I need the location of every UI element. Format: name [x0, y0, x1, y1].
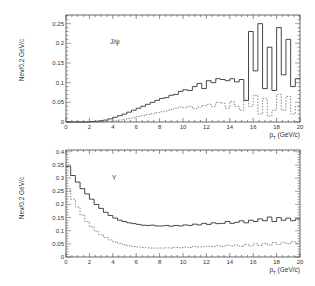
x-tick-label: 6 — [135, 124, 139, 130]
x-tick-label: 18 — [273, 259, 280, 265]
x-tick-label: 0 — [64, 259, 68, 265]
solid-histogram — [66, 166, 300, 226]
plot-frame — [66, 150, 300, 257]
dashed-histogram — [66, 189, 300, 248]
plot-frame — [66, 15, 300, 122]
y-tick-label: 0.3 — [56, 175, 65, 181]
x-tick-label: 4 — [111, 124, 115, 130]
x-tick-label: 8 — [158, 259, 162, 265]
particle-annotation: J/ψ — [110, 38, 120, 46]
x-tick-label: 10 — [180, 124, 187, 130]
x-tick-label: 2 — [88, 259, 92, 265]
y-axis-label: Nev/0.2 GeV/c — [18, 176, 25, 219]
x-tick-label: 16 — [250, 124, 257, 130]
x-axis-label: pT (GeV/c) — [269, 131, 300, 141]
y-tick-label: 0.15 — [52, 60, 64, 66]
jpsi-panel: 0246810121416182000.050.10.150.20.25J/ψp… — [18, 15, 304, 141]
y-tick-label: 0.25 — [52, 21, 64, 27]
x-tick-label: 6 — [135, 259, 139, 265]
upsilon-panel: 0246810121416182000.050.10.150.20.250.30… — [18, 149, 304, 276]
x-tick-label: 10 — [180, 259, 187, 265]
particle-annotation: Υ — [112, 174, 117, 181]
y-tick-label: 0.2 — [56, 201, 65, 207]
physics-figure: 0246810121416182000.050.10.150.20.25J/ψp… — [0, 0, 315, 286]
y-tick-label: 0.2 — [56, 40, 65, 46]
x-tick-label: 12 — [203, 259, 210, 265]
x-tick-label: 20 — [297, 259, 304, 265]
x-tick-label: 2 — [88, 124, 92, 130]
y-tick-label: 0.05 — [52, 241, 64, 247]
x-tick-label: 0 — [64, 124, 68, 130]
y-tick-label: 0.25 — [52, 188, 64, 194]
y-tick-label: 0.35 — [52, 162, 64, 168]
x-tick-label: 12 — [203, 124, 210, 130]
x-tick-label: 16 — [250, 259, 257, 265]
x-tick-label: 14 — [226, 124, 233, 130]
dashed-histogram — [66, 94, 300, 122]
y-tick-label: 0.1 — [56, 228, 65, 234]
y-tick-label: 0.05 — [52, 99, 64, 105]
y-axis-label: Nev/0.2 GeV/c — [18, 38, 25, 81]
y-tick-label: 0.1 — [56, 80, 65, 86]
x-tick-label: 18 — [273, 124, 280, 130]
x-tick-label: 20 — [297, 124, 304, 130]
x-axis-label: pT (GeV/c) — [269, 266, 300, 276]
x-tick-label: 8 — [158, 124, 162, 130]
x-tick-label: 4 — [111, 259, 115, 265]
x-tick-label: 14 — [226, 259, 233, 265]
y-tick-label: 0.4 — [56, 149, 65, 155]
y-tick-label: 0.15 — [52, 215, 64, 221]
